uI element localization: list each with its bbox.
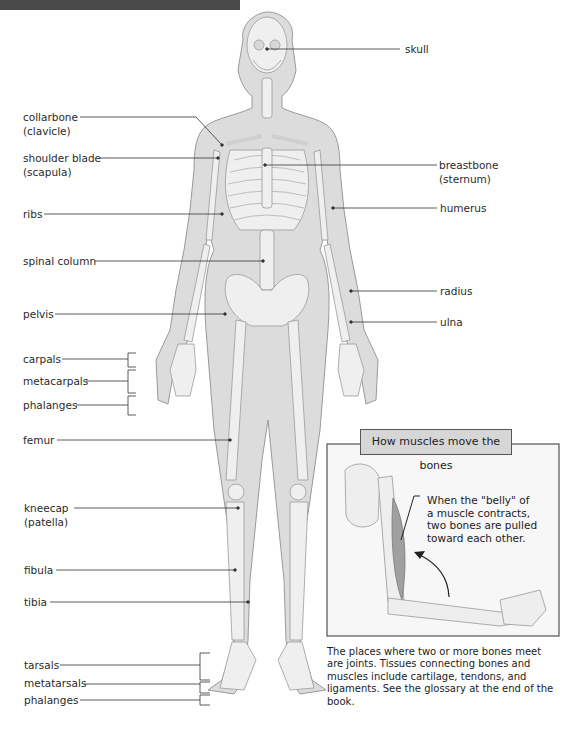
label-skull: skull — [405, 43, 429, 56]
inset-note-line: a muscle contracts, — [427, 507, 537, 520]
cervical-spine — [262, 78, 272, 118]
label-tibia: tibia — [24, 596, 47, 609]
left-foot — [220, 642, 256, 690]
shoulder — [345, 464, 380, 527]
label-scapula: (scapula) — [23, 166, 72, 179]
foot-bracket — [200, 653, 210, 705]
label-fibula: fibula — [24, 564, 53, 577]
right-eye-socket — [270, 40, 280, 50]
inset-note: When the "belly" of a muscle contracts, … — [427, 494, 537, 544]
label-humerus: humerus — [440, 202, 486, 215]
right-lower-leg — [290, 502, 308, 640]
label-pelvis: pelvis — [23, 308, 54, 321]
label-collarbone: collarbone — [23, 111, 78, 124]
body-illustration — [0, 0, 567, 735]
label-ribs: ribs — [23, 208, 42, 221]
left-eye-socket — [254, 40, 264, 50]
label-clavicle: (clavicle) — [23, 125, 71, 138]
skeleton-diagram: collarbone (clavicle) shoulder blade (sc… — [0, 0, 567, 735]
hand-bracket — [128, 353, 136, 415]
label-foot-phalanges: phalanges — [24, 694, 78, 707]
label-kneecap: kneecap — [24, 502, 69, 515]
inset-note-line: When the "belly" of — [427, 494, 537, 507]
skull-bone — [247, 17, 287, 73]
label-ulna: ulna — [440, 316, 463, 329]
label-carpals: carpals — [23, 353, 61, 366]
label-femur: femur — [23, 434, 54, 447]
label-spinal-column: spinal column — [23, 255, 96, 268]
inset-title: How muscles move the bones — [360, 429, 512, 455]
sternum — [262, 148, 272, 208]
label-sternum: (sternum) — [439, 173, 491, 186]
label-metacarpals: metacarpals — [23, 375, 88, 388]
label-metatarsals: metatarsals — [24, 677, 86, 690]
caption: The places where two or more bones meet … — [327, 646, 559, 708]
label-shoulder-blade: shoulder blade — [23, 152, 101, 165]
right-foot — [278, 642, 314, 690]
label-radius: radius — [440, 285, 472, 298]
label-breastbone: breastbone — [439, 159, 498, 172]
label-patella: (patella) — [24, 516, 68, 529]
label-tarsals: tarsals — [24, 659, 59, 672]
inset-note-line: toward each other. — [427, 532, 537, 545]
inset-note-line: two bones are pulled — [427, 519, 537, 532]
label-hand-phalanges: phalanges — [23, 399, 77, 412]
right-patella — [290, 484, 306, 500]
left-patella — [228, 484, 244, 500]
